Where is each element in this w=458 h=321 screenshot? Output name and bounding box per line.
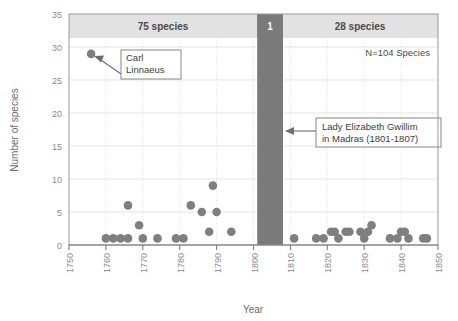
- data-point: [386, 234, 395, 243]
- data-point: [198, 208, 207, 217]
- chart-canvas: 35 30 25 20 15 10 5 0 Number of species: [0, 0, 458, 321]
- callout-linnaeus-line2: Linnaeus: [126, 64, 165, 75]
- y-tick-15: 15: [52, 142, 62, 152]
- x-axis-tick-marks: [69, 245, 438, 250]
- x-tick-1840: 1840: [397, 253, 407, 273]
- gwillim-highlight-span: [257, 14, 283, 245]
- y-tick-5: 5: [57, 208, 62, 218]
- x-tick-1790: 1790: [213, 253, 223, 273]
- data-point: [290, 234, 299, 243]
- x-tick-1770: 1770: [139, 253, 149, 273]
- data-point: [172, 234, 181, 243]
- data-point: [139, 234, 148, 243]
- data-point: [345, 228, 354, 237]
- era-band-left-label: 75 species: [138, 21, 189, 32]
- y-tick-10: 10: [52, 175, 62, 185]
- data-point: [124, 234, 133, 243]
- data-point: [312, 234, 321, 243]
- data-point: [319, 234, 328, 243]
- data-point: [153, 234, 162, 243]
- era-bands: 75 species 1 28 species: [69, 14, 438, 38]
- data-point: [404, 234, 413, 243]
- data-point: [102, 234, 111, 243]
- x-tick-1830: 1830: [360, 253, 370, 273]
- x-tick-1810: 1810: [286, 253, 296, 273]
- x-tick-1850: 1850: [434, 253, 444, 273]
- data-point: [423, 234, 432, 243]
- data-point: [135, 221, 144, 230]
- data-point: [209, 181, 218, 190]
- data-point: [179, 234, 188, 243]
- callout-gwillim-line2: in Madras (1801-1807): [322, 133, 418, 144]
- data-point: [124, 201, 133, 210]
- y-axis-title: Number of species: [9, 88, 20, 171]
- x-tick-1780: 1780: [176, 253, 186, 273]
- era-band-middle-label: 1: [267, 21, 273, 32]
- x-tick-1820: 1820: [323, 253, 333, 273]
- sample-size-note: N=104 Species: [365, 47, 430, 58]
- callout-linnaeus-line1: Carl: [126, 52, 143, 63]
- data-point: [227, 228, 236, 237]
- data-point: [205, 228, 214, 237]
- data-point: [116, 234, 125, 243]
- y-tick-25: 25: [52, 76, 62, 86]
- data-point: [187, 201, 196, 210]
- x-tick-1760: 1760: [102, 253, 112, 273]
- x-tick-1750: 1750: [65, 253, 75, 273]
- data-point: [87, 50, 96, 59]
- y-axis-tick-labels: 35 30 25 20 15 10 5 0: [52, 10, 62, 251]
- era-band-right-label: 28 species: [335, 21, 386, 32]
- y-tick-0: 0: [57, 241, 62, 251]
- x-axis-tick-labels: 1750 1760 1770 1780 1790 1800 1810 1820 …: [65, 253, 444, 273]
- y-tick-35: 35: [52, 10, 62, 20]
- x-axis-title: Year: [243, 304, 264, 315]
- scatter-chart-figure: 35 30 25 20 15 10 5 0 Number of species: [0, 0, 458, 321]
- data-point: [212, 208, 221, 217]
- y-tick-30: 30: [52, 43, 62, 53]
- data-point: [367, 221, 376, 230]
- y-tick-20: 20: [52, 109, 62, 119]
- x-tick-1800: 1800: [250, 253, 260, 273]
- data-point: [334, 234, 343, 243]
- callout-gwillim-line1: Lady Elizabeth Gwillim: [322, 121, 418, 132]
